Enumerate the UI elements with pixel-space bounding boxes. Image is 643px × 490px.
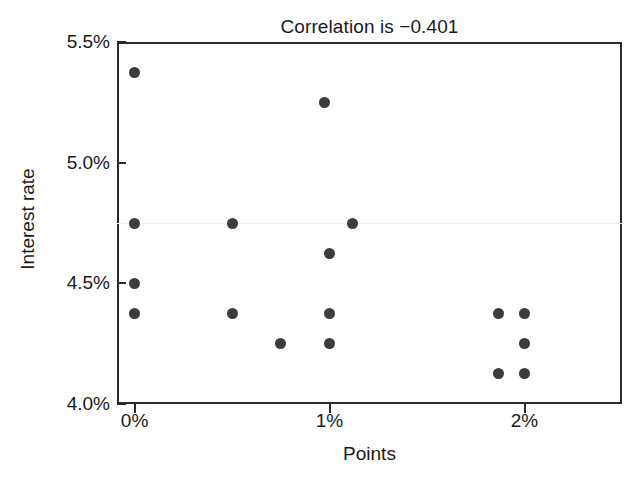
- scatter-chart: Correlation is −0.401 4.0%4.5%5.0%5.5% 0…: [0, 0, 643, 490]
- x-tick-label: 2%: [490, 410, 560, 432]
- y-tick-mark: [117, 403, 126, 405]
- x-tick-label: 0%: [100, 410, 170, 432]
- x-tick-mark: [134, 404, 136, 413]
- x-tick-mark: [524, 404, 526, 413]
- y-tick-mark: [117, 41, 126, 43]
- y-axis-title: Interest rate: [17, 119, 39, 319]
- y-tick-mark: [117, 162, 126, 164]
- y-tick-mark: [117, 282, 126, 284]
- x-axis-ticks: 0%1%2%: [0, 0, 643, 490]
- x-axis-title: Points: [117, 443, 622, 465]
- x-tick-mark: [329, 404, 331, 413]
- x-tick-label: 1%: [295, 410, 365, 432]
